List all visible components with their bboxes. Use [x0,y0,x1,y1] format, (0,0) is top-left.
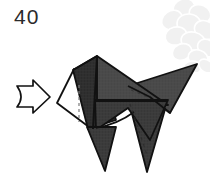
push-arrow [17,80,50,113]
origami-figure [0,0,210,175]
front-leg-panel [87,127,116,171]
origami-step-page: 40 [0,0,210,175]
